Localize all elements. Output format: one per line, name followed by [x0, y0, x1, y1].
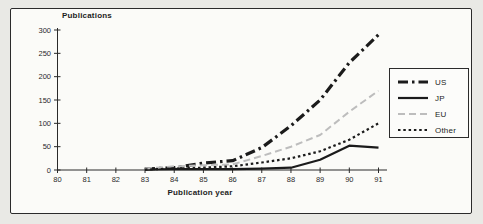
- scanned-figure: Publications 808182838485868788899091050…: [0, 0, 483, 224]
- legend-item-eu: EU: [397, 106, 468, 122]
- y-tick-label: 250: [38, 49, 51, 58]
- x-tick-label: 90: [345, 175, 353, 184]
- legend-label-us: US: [435, 78, 447, 87]
- x-tick-label: 84: [170, 175, 178, 184]
- legend-item-jp: JP: [397, 90, 468, 106]
- y-axis-title: Publications: [62, 11, 112, 20]
- x-tick-label: 82: [112, 175, 120, 184]
- series-line-eu: [145, 91, 379, 169]
- y-tick-label: 150: [38, 96, 51, 105]
- x-axis-title: Publication year: [130, 188, 270, 197]
- y-tick-label: 100: [38, 119, 51, 128]
- y-tick-label: 200: [38, 72, 51, 81]
- y-tick-label: 0: [47, 166, 51, 175]
- legend-item-other: Other: [397, 122, 468, 138]
- x-tick-label: 81: [83, 175, 91, 184]
- legend-label-other: Other: [435, 126, 456, 135]
- x-tick-label: 88: [287, 175, 295, 184]
- legend-line-sample-other: [397, 125, 429, 135]
- y-tick-label: 50: [43, 142, 51, 151]
- legend-label-eu: EU: [435, 110, 447, 119]
- legend-line-sample-us: [397, 77, 429, 87]
- legend-box: USJPEUOther: [389, 68, 469, 138]
- x-tick-label: 85: [199, 175, 207, 184]
- legend-label-jp: JP: [435, 94, 445, 103]
- x-tick-label: 80: [53, 175, 61, 184]
- legend-line-sample-jp: [397, 93, 429, 103]
- series-line-other: [145, 123, 379, 169]
- legend-line-sample-eu: [397, 109, 429, 119]
- y-tick-label: 300: [38, 26, 51, 35]
- x-tick-label: 87: [258, 175, 266, 184]
- x-tick-label: 86: [228, 175, 236, 184]
- x-tick-label: 83: [141, 175, 149, 184]
- x-tick-label: 91: [374, 175, 382, 184]
- legend-item-us: US: [397, 74, 468, 90]
- x-tick-label: 89: [316, 175, 324, 184]
